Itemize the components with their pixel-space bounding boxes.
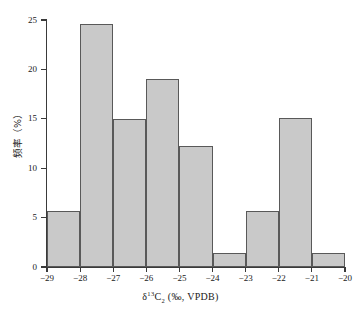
- x-axis-tick: [311, 267, 312, 272]
- y-axis-tick-label: 25: [0, 16, 37, 25]
- y-axis-tick: [41, 168, 46, 169]
- histogram-bar: [246, 211, 279, 267]
- histogram-bar: [113, 119, 146, 267]
- x-axis-title-units: (‰, VPDB): [165, 291, 219, 302]
- histogram-bar: [179, 146, 212, 267]
- histogram-bar: [80, 24, 113, 267]
- y-axis-tick: [41, 19, 46, 20]
- y-axis-tick: [41, 69, 46, 70]
- histogram-bar: [146, 79, 179, 267]
- x-axis-tick: [179, 267, 180, 272]
- histogram-bar: [47, 211, 80, 267]
- histogram-bar: [213, 253, 246, 267]
- y-axis-title: 频率（%）: [12, 79, 23, 189]
- histogram-bar: [279, 118, 312, 267]
- y-axis-tick-label: 20: [0, 65, 37, 74]
- x-axis-tick: [278, 267, 279, 272]
- x-axis-tick: [146, 267, 147, 272]
- histogram-bar: [312, 253, 345, 267]
- x-axis-tick: [80, 267, 81, 272]
- x-axis-tick: [113, 267, 114, 272]
- y-axis-tick: [41, 266, 46, 267]
- y-axis-tick-label: 5: [0, 213, 37, 222]
- x-axis-tick: [212, 267, 213, 272]
- y-axis-tick: [41, 118, 46, 119]
- x-axis-title: δ13C2 (‰, VPDB): [0, 288, 361, 307]
- histogram-figure: 0510152025 −29−28−27−26−25−24−23−22−21−2…: [0, 0, 361, 311]
- y-axis-tick-label: 0: [0, 263, 37, 272]
- x-axis-tick: [344, 267, 345, 272]
- x-axis-tick: [46, 267, 47, 272]
- x-axis-tick: [245, 267, 246, 272]
- y-axis-tick: [41, 217, 46, 218]
- x-axis-tick-label: −20: [325, 273, 361, 283]
